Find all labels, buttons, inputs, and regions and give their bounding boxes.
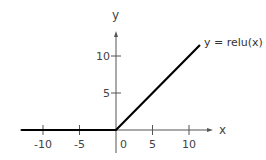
x-axis-arrow-icon: [207, 128, 213, 132]
x-tick-label: -5: [74, 138, 85, 151]
x-tick-label: 0: [120, 138, 127, 151]
y-axis-label: y: [112, 8, 119, 22]
y-axis-arrow-icon: [114, 31, 118, 37]
x-tick-label: 10: [182, 138, 196, 151]
y-ticks: 510: [96, 50, 121, 100]
relu-chart: -10-50510 510 x y y = relu(x): [0, 0, 266, 160]
function-label: y = relu(x): [204, 36, 263, 49]
x-tick-label: 5: [149, 138, 156, 151]
x-tick-label: -10: [34, 138, 52, 151]
x-axis-label: x: [219, 123, 226, 137]
y-tick-label: 10: [96, 50, 110, 63]
relu-line: [21, 45, 200, 130]
y-tick-label: 5: [103, 87, 110, 100]
